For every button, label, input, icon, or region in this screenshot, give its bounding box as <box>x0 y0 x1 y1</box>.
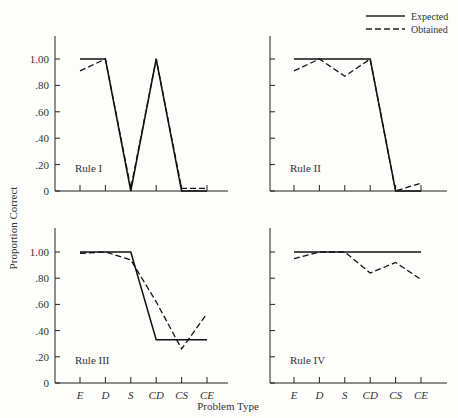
x-tick-label: E <box>290 389 298 401</box>
obtained-line <box>80 252 207 349</box>
y-tick-label: .80 <box>35 272 49 284</box>
y-tick-label: .60 <box>35 298 49 310</box>
panel-title: Rule III <box>75 354 110 366</box>
panel-title: Rule I <box>75 162 103 174</box>
x-tick-label: D <box>314 389 323 401</box>
chart-figure: Expected Obtained Proportion Correct Pro… <box>0 0 458 418</box>
y-tick-label: 0 <box>44 377 50 389</box>
y-tick-label: .40 <box>35 132 49 144</box>
panel-title: Rule IV <box>290 354 325 366</box>
panel-3: 0.20.40.60.801.00EDSCDCSCERule III <box>30 228 228 401</box>
legend-expected-label: Expected <box>411 11 448 22</box>
expected-line <box>80 252 207 340</box>
x-tick-label: D <box>100 389 109 401</box>
y-tick-label: 1.00 <box>30 53 50 65</box>
x-tick-label: CD <box>149 389 164 401</box>
y-tick-label: .60 <box>35 106 49 118</box>
panel-title: Rule II <box>290 162 321 174</box>
x-tick-label: S <box>128 389 134 401</box>
x-tick-label: CD <box>363 389 378 401</box>
x-tick-label: CE <box>200 389 214 401</box>
y-tick-label: .20 <box>35 159 49 171</box>
x-axis-title: Problem Type <box>197 400 259 412</box>
y-tick-label: .40 <box>35 325 49 337</box>
obtained-line <box>294 252 421 280</box>
x-tick-label: CS <box>389 389 402 401</box>
panel-1: 0.20.40.60.801.00Rule I <box>30 36 228 197</box>
panel-2: Rule II <box>270 36 447 191</box>
x-tick-label: E <box>76 389 84 401</box>
y-tick-label: 0 <box>44 185 50 197</box>
legend-obtained-label: Obtained <box>411 24 448 35</box>
x-tick-label: S <box>342 389 348 401</box>
x-tick-label: CE <box>414 389 428 401</box>
x-tick-label: CS <box>175 389 188 401</box>
legend: Expected Obtained <box>366 11 448 35</box>
y-axis-title: Proportion Correct <box>7 187 19 270</box>
panel-4: EDSCDCSCERule IV <box>270 228 447 401</box>
y-tick-label: 1.00 <box>30 246 50 258</box>
y-tick-label: .20 <box>35 351 49 363</box>
y-tick-label: .80 <box>35 79 49 91</box>
